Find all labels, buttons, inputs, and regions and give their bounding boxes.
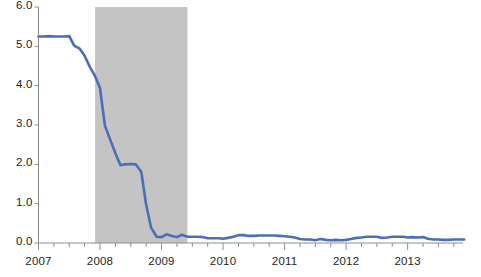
x-axis-tick-label: 2007 xyxy=(9,255,69,267)
y-axis-tick-label: 6.0 xyxy=(3,0,33,11)
x-axis-tick-label: 2010 xyxy=(193,255,253,267)
x-axis-tick-label: 2008 xyxy=(70,255,130,267)
line-chart-plot xyxy=(0,0,481,277)
y-axis-tick-label: 1.0 xyxy=(3,196,33,208)
recession-shading-recession xyxy=(95,7,187,243)
y-axis-tick-label: 3.0 xyxy=(3,117,33,129)
chart-container: 0.01.02.03.04.05.06.0 200720082009201020… xyxy=(0,0,481,277)
y-axis-tick-label: 5.0 xyxy=(3,38,33,50)
y-axis-tick-label: 2.0 xyxy=(3,156,33,168)
x-axis-tick-label: 2011 xyxy=(255,255,315,267)
x-axis-tick-label: 2009 xyxy=(132,255,192,267)
recession-shading-layer xyxy=(95,7,187,243)
x-axis-tick-label: 2012 xyxy=(316,255,376,267)
x-axis-tick-label: 2013 xyxy=(378,255,438,267)
y-axis-tick-label: 4.0 xyxy=(3,78,33,90)
y-axis-tick-label: 0.0 xyxy=(3,235,33,247)
